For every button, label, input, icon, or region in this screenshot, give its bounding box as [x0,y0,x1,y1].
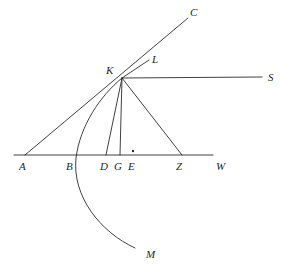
segment-K-D [106,78,122,155]
point-label-Z: Z [176,160,183,172]
point-label-K: K [105,64,114,76]
point-label-W: W [216,160,226,172]
point-label-B: B [66,160,73,172]
geometry-figure: A B D G E Z W K L C S M [0,0,293,274]
point-label-S: S [268,71,274,83]
point-label-L: L [151,53,158,65]
segment-K-G [120,78,122,155]
segment-K-Z [122,78,182,155]
point-label-C: C [190,6,198,18]
ray-K-to-S [122,77,262,78]
point-label-A: A [18,160,26,172]
ray-A-to-C [25,18,188,155]
point-E-dot [132,150,134,152]
point-label-D: D [99,160,108,172]
geometry-canvas: A B D G E Z W K L C S M [0,0,293,274]
point-label-E: E [127,160,135,172]
point-label-M: M [145,248,156,260]
point-label-G: G [114,160,122,172]
